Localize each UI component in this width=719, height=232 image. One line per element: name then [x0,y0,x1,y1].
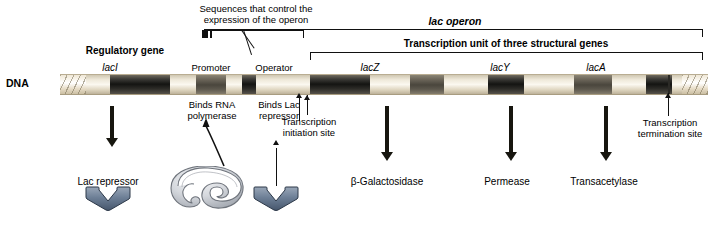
callout-transcription-initiation-site: Transcription initiation site [270,116,348,138]
label-lac-operon: lac operon [400,16,510,27]
dna-hatch-right [682,75,708,94]
dna-segment-light-8 [672,75,682,94]
dna-segment-light-4 [370,75,410,94]
arrow-to-lac-repressor [106,106,118,148]
initiation-site-arrowhead [304,95,311,105]
dna-segment-light-7 [612,75,646,94]
dna-segment-light-3 [256,75,310,94]
bracket-lac-operon [204,29,703,37]
dna-strand [60,74,708,95]
label-transcription-unit: Transcription unit of three structural g… [330,38,682,49]
product-label-transacetylase: Transacetylase [555,176,653,187]
termination-site-arrowhead [665,93,672,103]
gene-label-laca: lacA [566,62,626,73]
dna-segment-light-5 [444,75,488,94]
arrow-to-transacetylase [600,106,612,162]
dna-segment-lacz [310,75,370,94]
rna-polymerase-glyph [168,166,244,210]
gene-label-laci: lacI [80,62,140,73]
gene-label-lacy: lacY [470,62,530,73]
bracket-transcription-unit [310,52,703,60]
gene-label-lacz: lacZ [340,62,400,73]
dna-segment-operator [226,75,242,94]
arrow-to-permease [505,106,517,162]
dna-segment-light-2 [170,75,196,94]
figure-canvas: DNA Sequences that contro [0,0,719,232]
dna-segment-operator-dark [242,75,256,94]
dna-segment-light-6 [524,75,574,94]
dna-termination-tick [668,75,670,94]
callout-transcription-termination-site: Transcription termination site [629,117,711,139]
dna-segment-laci [110,75,170,94]
product-label-permease: Permease [462,176,552,187]
arrow-to-beta-galactosidase [381,106,393,162]
lac-repressor-glyph-left [85,186,131,212]
lac-repressor-glyph-middle [253,186,299,212]
product-label-beta-galactosidase: β-Galactosidase [332,176,442,187]
label-regulatory-gene: Regulatory gene [60,45,190,56]
repressor-up-line [276,148,277,186]
dna-segment-mid-2 [574,75,612,94]
dna-segment-lacy [488,75,524,94]
repressor-up-arrowhead [273,140,280,150]
dna-segment-mid-1 [410,75,444,94]
dna-segment-light-1 [86,75,110,94]
polymerase-connector-curve [180,108,260,170]
dna-axis-label: DNA [6,78,29,89]
dna-segment-promoter [196,75,226,94]
dna-hatch-left [60,75,86,94]
label-control-sequences: Sequences that control the expression of… [186,3,326,25]
gene-label-operator: Operator [243,62,305,73]
gene-label-promoter: Promoter [178,62,244,73]
